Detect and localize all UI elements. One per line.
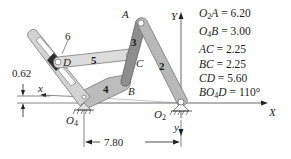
horizontal-distance-value: 7.80 — [104, 136, 124, 148]
param-bc: BC = 2.25 — [199, 57, 260, 71]
y-axis-label: Y — [171, 10, 179, 22]
o2-label: O2 — [154, 108, 166, 122]
param-ac: AC = 2.25 — [199, 42, 260, 56]
point-b-label: B — [128, 85, 135, 97]
x-axis-label: X — [268, 106, 277, 118]
link-3-label: 3 — [131, 36, 137, 48]
local-x-label: x — [37, 82, 43, 94]
local-y-label: y — [173, 121, 179, 133]
point-c-label: C — [136, 57, 144, 69]
o4-label: O4 — [66, 114, 78, 128]
parameter-list: O2A = 6.20 O4B = 3.00 AC = 2.25 BC = 2.2… — [199, 6, 260, 103]
link-4: 4 — [28, 29, 131, 110]
param-bo4d: BO4D = 110° — [199, 85, 260, 103]
vertical-offset-value: 0.62 — [12, 67, 31, 79]
link-5-label: 5 — [91, 54, 97, 66]
link-6-label: 6 — [65, 30, 71, 42]
local-y-axis: y — [173, 121, 184, 136]
vertical-offset-dimension: 0.62 — [12, 67, 31, 117]
link-2-label: 2 — [159, 60, 165, 72]
point-a-label: A — [121, 8, 129, 20]
param-o2a: O2A = 6.20 — [199, 6, 260, 24]
link-4-label: 4 — [103, 83, 109, 95]
param-cd: CD = 5.60 — [199, 71, 260, 85]
point-d-label: D — [62, 56, 71, 68]
link-2: 2 — [136, 18, 187, 106]
param-o4b: O4B = 3.00 — [199, 24, 260, 42]
horizontal-distance-dimension: 7.80 — [84, 106, 181, 148]
